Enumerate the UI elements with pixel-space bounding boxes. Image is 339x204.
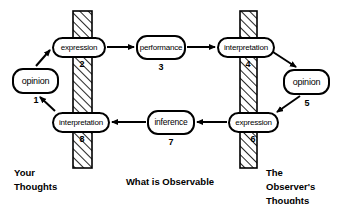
node-label-opinion-5: opinion [293, 78, 321, 87]
node-inference-7[interactable]: inference [147, 110, 195, 135]
node-number-performance-3: 3 [149, 63, 173, 72]
right-barrier [240, 11, 257, 168]
node-number-opinion-1: 1 [24, 96, 48, 105]
caption-what-observable-line-0: What is Observable [110, 175, 230, 189]
node-label-interpretation-8: interpretation [59, 119, 103, 127]
node-interpretation-8[interactable]: interpretation [52, 112, 110, 133]
node-number-inference-7: 7 [159, 138, 183, 147]
caption-your-thoughts-line-0: Your [14, 166, 57, 180]
caption-your-thoughts-line-1: Thoughts [14, 180, 57, 194]
node-number-expression-6: 6 [241, 135, 265, 144]
node-opinion-5[interactable]: opinion [283, 69, 330, 95]
node-number-interpretation-8: 8 [70, 135, 94, 144]
left-barrier [73, 11, 92, 168]
caption-observers-thoughts-line-1: Observer's [266, 180, 315, 194]
caption-observers-thoughts: TheObserver'sThoughts [266, 166, 315, 204]
node-interpretation-4[interactable]: interpretation [217, 37, 275, 58]
node-performance-3[interactable]: performance [136, 35, 186, 60]
caption-what-observable: What is Observable [110, 175, 230, 189]
node-label-interpretation-4: interpretation [224, 44, 268, 52]
node-opinion-1[interactable]: opinion [12, 68, 59, 94]
caption-observers-thoughts-line-0: The [266, 166, 315, 180]
node-label-performance-3: performance [140, 44, 183, 52]
node-number-expression-2: 2 [70, 60, 94, 69]
node-number-opinion-5: 5 [295, 99, 319, 108]
caption-your-thoughts: YourThoughts [14, 166, 57, 194]
node-label-opinion-1: opinion [22, 77, 50, 86]
node-label-expression-2: expression [61, 44, 98, 52]
edge-opinion1-to-expression2 [36, 50, 50, 66]
node-number-interpretation-4: 4 [236, 60, 260, 69]
diagram-canvas: opinionexpressionperformanceinterpretati… [0, 0, 339, 204]
caption-observers-thoughts-line-2: Thoughts [266, 194, 315, 204]
node-label-expression-6: expression [235, 119, 272, 127]
node-expression-6[interactable]: expression [228, 112, 279, 133]
node-expression-2[interactable]: expression [52, 37, 106, 58]
edge-interpretation4-to-opinion5 [273, 52, 296, 67]
node-label-inference-7: inference [154, 118, 187, 127]
